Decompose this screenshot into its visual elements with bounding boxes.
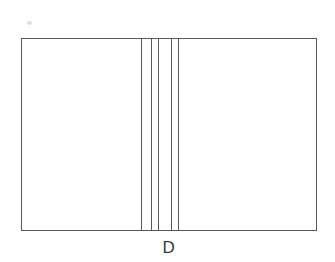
vertical-line-5 (178, 38, 179, 231)
pencil-smudge-mark (27, 21, 32, 25)
vertical-line-1 (141, 38, 142, 231)
outer-rectangle (21, 38, 317, 231)
figure-canvas: D (0, 0, 335, 262)
figure-caption-label: D (159, 239, 179, 257)
vertical-line-3 (158, 38, 159, 231)
vertical-line-4 (171, 38, 172, 231)
vertical-line-2 (151, 38, 152, 231)
